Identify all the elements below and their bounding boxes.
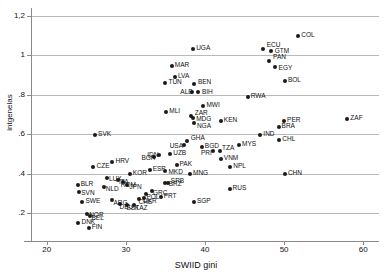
data-point-label: ZAF: [350, 115, 362, 122]
data-point-label: MNG: [193, 170, 208, 177]
data-point-label: BRA: [282, 123, 295, 130]
data-point-label: MAR: [175, 62, 189, 69]
data-point-label: NPL: [233, 163, 246, 170]
data-point: [80, 200, 84, 204]
data-point-label: RWA: [251, 93, 266, 100]
y-tick-label: .8: [0, 91, 25, 99]
data-point: [110, 160, 114, 164]
data-point: [273, 65, 277, 69]
y-tick-mark: [27, 174, 31, 175]
data-point-label: MDG: [196, 116, 211, 123]
data-point: [192, 121, 196, 125]
data-point-label: UZB: [173, 150, 186, 157]
data-point: [258, 133, 262, 137]
y-gridline: [31, 213, 379, 214]
data-point-label: SVK: [98, 131, 111, 138]
data-point: [163, 81, 167, 85]
data-point-label: IND: [263, 131, 274, 138]
y-tick-mark: [27, 134, 31, 135]
data-point: [93, 133, 97, 137]
data-point: [219, 157, 223, 161]
data-point-label: CHN: [288, 170, 302, 177]
x-tick-label: 30: [111, 246, 141, 254]
data-point: [148, 168, 152, 172]
y-tick-label: .2: [0, 209, 25, 217]
x-tick-label: 40: [190, 246, 220, 254]
x-axis-line: [24, 241, 379, 242]
y-tick-label: .4: [0, 170, 25, 178]
data-point-label: GHA: [191, 135, 205, 142]
data-point: [188, 172, 192, 176]
data-point-label: HRV: [115, 158, 129, 165]
y-gridline: [31, 16, 379, 17]
data-point: [283, 172, 287, 176]
data-point-label: BLR: [81, 181, 94, 188]
data-point-label: BIH: [202, 89, 213, 96]
x-tick-label: 60: [348, 246, 378, 254]
data-point-label: NLD: [106, 186, 119, 193]
data-point: [87, 226, 91, 230]
data-point-label: MKD: [168, 169, 182, 176]
data-point: [237, 143, 241, 147]
y-tick-mark: [27, 95, 31, 96]
data-point-label: KEN: [224, 117, 237, 124]
data-point-label: PRT: [164, 193, 177, 200]
data-point: [76, 183, 80, 187]
data-point-label: BGR: [141, 155, 155, 162]
data-point: [196, 90, 200, 94]
data-point: [261, 47, 265, 51]
data-point: [76, 221, 80, 225]
data-point-label: PAN: [273, 54, 286, 61]
data-point-label: PAK: [180, 161, 193, 168]
data-point: [267, 59, 271, 63]
data-point: [128, 172, 132, 176]
data-point: [159, 195, 163, 199]
data-point: [345, 117, 349, 121]
y-tick-label: .6: [0, 130, 25, 138]
data-point-label: ALB: [180, 89, 192, 96]
data-point-label: MYS: [242, 141, 256, 148]
data-point-label: MWI: [206, 102, 219, 109]
data-point: [296, 34, 300, 38]
x-axis-title: SWIID gini: [0, 260, 392, 270]
data-point: [269, 49, 273, 53]
data-point-label: PRI: [201, 150, 212, 157]
data-point-label: SRB: [171, 178, 184, 185]
data-point: [283, 79, 287, 83]
data-point-label: BOL: [288, 77, 301, 84]
x-tick-label: 20: [32, 246, 62, 254]
data-point: [175, 163, 179, 167]
y-tick-label: 1: [0, 51, 25, 59]
data-point: [170, 64, 174, 68]
data-point-label: TZA: [222, 145, 234, 152]
data-point-label: CHL: [282, 136, 295, 143]
data-point: [201, 104, 205, 108]
data-point: [191, 116, 195, 120]
data-point-label: BEN: [198, 79, 211, 86]
y-tick-mark: [27, 213, 31, 214]
y-axis-line: [31, 8, 32, 241]
x-tick-label: 50: [269, 246, 299, 254]
y-gridline: [31, 134, 379, 135]
data-point-label: SGP: [197, 198, 211, 205]
data-point-label: KAZ: [135, 205, 148, 212]
data-point-label: VNM: [224, 155, 238, 162]
data-point-label: COL: [301, 32, 314, 39]
data-point: [192, 200, 196, 204]
data-point-label: FIN: [92, 224, 102, 231]
plot-area: COLECUGTMUGAPANEGYMARLVABOLTUNBENALBBIHR…: [31, 8, 379, 233]
data-point: [277, 138, 281, 142]
data-point-label: NGA: [197, 123, 211, 130]
y-tick-label: 1,2: [0, 12, 25, 20]
data-point: [91, 165, 95, 169]
data-point-label: EGY: [279, 65, 293, 72]
y-gridline: [31, 55, 379, 56]
data-point-label: CZE: [96, 163, 109, 170]
data-point: [191, 47, 195, 51]
data-point-label: SWE: [85, 198, 100, 205]
data-point: [219, 119, 223, 123]
data-point-label: MLI: [169, 108, 180, 115]
data-point: [168, 152, 172, 156]
data-point: [228, 187, 232, 191]
data-point-label: SVN: [81, 190, 94, 197]
